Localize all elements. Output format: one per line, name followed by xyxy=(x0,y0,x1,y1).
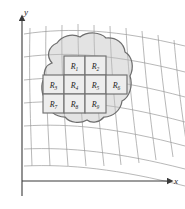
figure-container: R1 R2 R3 R4 R5 R6 R7 R8 R9 x y xyxy=(0,0,185,209)
y-axis-label: y xyxy=(23,7,28,17)
region-partition-figure: R1 R2 R3 R4 R5 R6 R7 R8 R9 x y xyxy=(0,0,185,209)
x-axis-label: x xyxy=(173,176,178,186)
